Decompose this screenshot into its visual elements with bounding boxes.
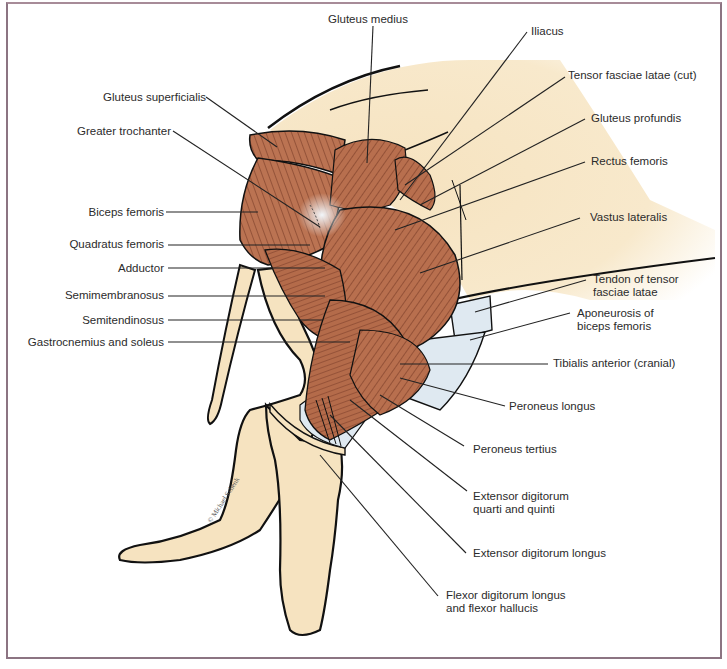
label-gluteus-profundis: Gluteus profundis xyxy=(591,112,681,125)
label-tibialis-anterior: Tibialis anterior (cranial) xyxy=(553,357,675,370)
label-greater-trochanter: Greater trochanter xyxy=(77,125,171,138)
label-line: quarti and quinti xyxy=(473,503,569,516)
label-gluteus-superficialis: Gluteus superficialis xyxy=(103,91,206,104)
label-tensor-fasciae-latae-cut: Tensor fasciae latae (cut) xyxy=(568,69,696,82)
label-adductor: Adductor xyxy=(118,262,164,275)
label-iliacus: Iliacus xyxy=(531,25,564,38)
label-line: and flexor hallucis xyxy=(446,602,566,615)
label-vastus-lateralis: Vastus lateralis xyxy=(590,211,667,224)
label-aponeurosis-biceps-femoris: Aponeurosis of biceps femoris xyxy=(577,307,654,333)
label-peroneus-tertius: Peroneus tertius xyxy=(473,443,557,456)
label-line: Tendon of tensor xyxy=(593,273,679,286)
label-biceps-femoris: Biceps femoris xyxy=(89,206,164,219)
label-tendon-tensor-fasciae-latae: Tendon of tensor fasciae latae xyxy=(593,273,679,299)
label-line: fasciae latae xyxy=(593,286,679,299)
label-gluteus-medius: Gluteus medius xyxy=(328,13,408,26)
label-line: Flexor digitorum longus xyxy=(446,589,566,602)
label-rectus-femoris: Rectus femoris xyxy=(591,155,668,168)
label-quadratus-femoris: Quadratus femoris xyxy=(69,238,164,251)
label-line: biceps femoris xyxy=(577,320,654,333)
label-extensor-digitorum-longus: Extensor digitorum longus xyxy=(473,547,606,560)
label-extensor-digitorum-quarti: Extensor digitorum quarti and quinti xyxy=(473,490,569,516)
label-semitendinosus: Semitendinosus xyxy=(82,314,164,327)
label-peroneus-longus: Peroneus longus xyxy=(509,400,595,413)
label-line: Extensor digitorum xyxy=(473,490,569,503)
label-semimembranosus: Semimembranosus xyxy=(65,289,164,302)
label-flexor-digitorum-longus: Flexor digitorum longus and flexor hallu… xyxy=(446,589,566,615)
label-gastrocnemius-soleus: Gastrocnemius and soleus xyxy=(28,336,164,349)
label-line: Aponeurosis of xyxy=(577,307,654,320)
